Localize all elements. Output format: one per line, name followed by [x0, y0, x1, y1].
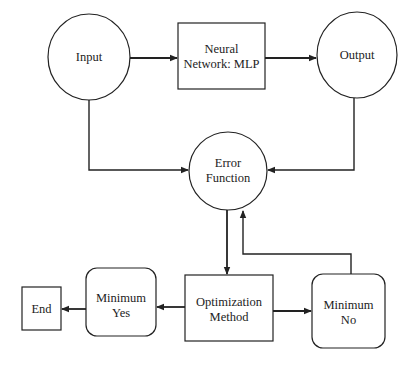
edge-min-no-to-error — [243, 211, 351, 274]
node-neural-network: Neural Network: MLP — [178, 23, 265, 89]
node-input: Input — [48, 14, 130, 100]
node-optimization-line2: Method — [210, 310, 250, 324]
edge-output-to-error — [268, 98, 354, 170]
node-min-no-line1: Minimum — [323, 298, 373, 312]
node-output: Output — [317, 12, 397, 98]
node-minimum-no: Minimum No — [312, 274, 385, 348]
node-end-label: End — [31, 302, 52, 316]
node-input-label: Input — [76, 50, 103, 64]
node-optimization-line1: Optimization — [196, 295, 263, 309]
node-mlp-line1: Neural — [204, 42, 239, 56]
node-output-label: Output — [340, 48, 375, 62]
node-error-function: Error Function — [189, 132, 267, 210]
node-minimum-yes: Minimum Yes — [86, 268, 156, 336]
node-optimization-method: Optimization Method — [185, 275, 273, 341]
edge-input-to-error — [89, 100, 188, 170]
node-min-yes-line1: Minimum — [96, 291, 146, 305]
node-min-yes-line2: Yes — [112, 306, 130, 320]
node-min-no-line2: No — [341, 313, 356, 327]
node-end: End — [22, 287, 61, 330]
node-error-line1: Error — [215, 156, 242, 170]
flowchart-diagram: Input Neural Network: MLP Output Error F… — [0, 0, 409, 366]
node-error-line2: Function — [206, 171, 251, 185]
node-mlp-line2: Network: MLP — [183, 57, 259, 71]
